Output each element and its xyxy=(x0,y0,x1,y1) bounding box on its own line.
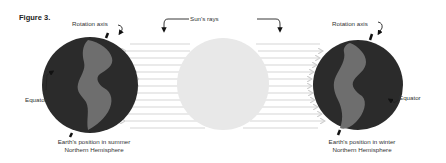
equator-label-left: Equator xyxy=(25,96,47,103)
rotation-axis-label-left: Rotation axis xyxy=(72,20,108,27)
rotation-axis-pointer-right xyxy=(378,22,382,33)
winter-caption: Earth's position in winter Northern Hemi… xyxy=(312,138,412,154)
suns-rays-pointer xyxy=(164,19,280,30)
earth-summer xyxy=(42,33,138,137)
summer-caption-line2: Northern Hemisphere xyxy=(44,146,144,154)
earth-winter xyxy=(313,34,403,135)
rotation-axis-pointer-left xyxy=(118,25,122,33)
equator-label-right: Equator xyxy=(399,94,421,101)
sun xyxy=(177,38,269,130)
rotation-axis-label-right: Rotation axis xyxy=(332,20,368,27)
summer-caption-line1: Earth's position in summer xyxy=(44,138,144,146)
winter-caption-line1: Earth's position in winter xyxy=(312,138,412,146)
summer-caption: Earth's position in summer Northern Hemi… xyxy=(44,138,144,154)
suns-rays-label: Sun's rays xyxy=(190,15,219,22)
winter-caption-line2: Northern Hemisphere xyxy=(312,146,412,154)
